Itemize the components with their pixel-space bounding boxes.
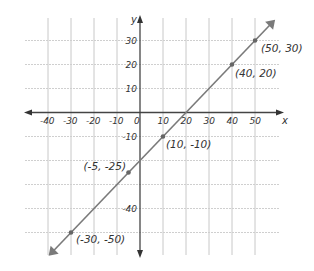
x-tick-label: 30 [204,116,216,126]
x-tick-label: 0 [134,116,140,126]
point-label: (50, 30) [261,42,303,54]
x-tick-label: -10 [109,116,124,126]
x-axis-left-arrow-icon [24,110,32,116]
y-tick-label: -10 [122,132,137,142]
x-tick-label: -30 [63,116,78,126]
data-point [253,38,258,43]
point-label: (40, 20) [235,67,277,79]
x-tick-label: -40 [40,116,55,126]
point-labels: (50, 30)(40, 20)(10, -10)(-5, -25)(-30, … [76,42,303,245]
x-axis-label: x [281,115,288,126]
data-point [69,230,74,235]
x-tick-label: -20 [86,116,101,126]
y-tick-label: 20 [126,60,138,70]
data-point [126,170,131,175]
y-axis-label: y [130,14,138,25]
x-tick-label: 40 [227,116,239,126]
y-axis-down-arrow-icon [137,250,143,258]
y-axis-up-arrow-icon [137,15,143,23]
point-label: (10, -10) [166,138,211,150]
data-point [161,134,166,139]
y-tick-label: 10 [126,84,138,94]
point-label: (-30, -50) [76,233,125,245]
data-line [49,20,276,256]
coordinate-plane: xy-40-30-20-1001020304050302010-10-40 (5… [0,0,314,271]
y-tick-label: 30 [126,36,138,46]
x-tick-label: 10 [158,116,170,126]
point-label: (-5, -25) [84,160,127,172]
data-point [230,62,235,67]
x-tick-label: 50 [250,116,262,126]
y-tick-label: -40 [122,204,137,214]
